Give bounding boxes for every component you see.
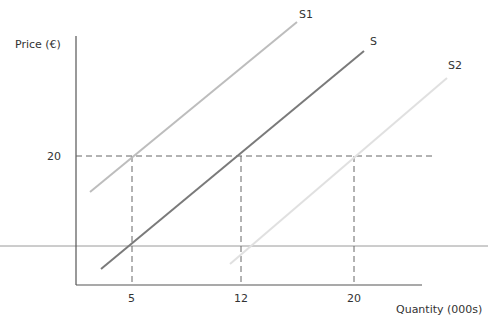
- s1-label: S1: [299, 8, 313, 21]
- x-axis-label: Quantity (000s): [396, 303, 482, 316]
- y-tick-20: 20: [47, 150, 61, 163]
- s2-label: S2: [448, 59, 462, 72]
- supply-curve-s: [101, 51, 364, 269]
- x-tick-12: 12: [234, 292, 248, 305]
- supply-curve-s2: [230, 78, 447, 264]
- x-tick-20: 20: [347, 292, 361, 305]
- supply-chart: Price (€) Quantity (000s) 20 5 12 20 S1 …: [0, 0, 488, 321]
- s-label: S: [370, 35, 377, 48]
- x-tick-5: 5: [128, 292, 135, 305]
- y-axis-label: Price (€): [15, 38, 61, 51]
- supply-curve-s1: [90, 22, 297, 192]
